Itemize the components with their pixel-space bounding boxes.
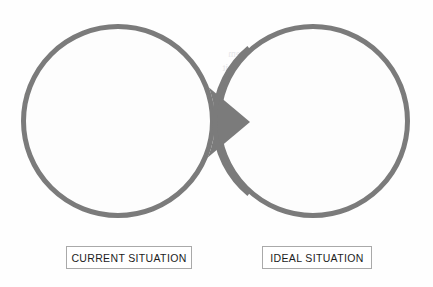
transition-diagram xyxy=(0,0,433,287)
label-ideal-situation[interactable]: IDEAL SITUATION xyxy=(262,246,372,269)
scanned-page-background: in sit a simili sequere e colitur ita si… xyxy=(0,0,433,287)
node-circle-current[interactable] xyxy=(24,27,213,216)
label-current-situation[interactable]: CURRENT SITUATION xyxy=(66,246,192,269)
current-situation-circle[interactable] xyxy=(24,27,213,216)
label-current-situation-text: CURRENT SITUATION xyxy=(71,252,186,264)
label-ideal-situation-text: IDEAL SITUATION xyxy=(270,252,363,264)
